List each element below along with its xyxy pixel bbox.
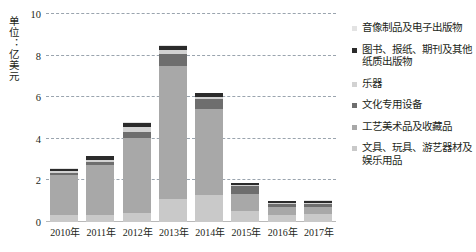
x-axis-tick-label: 2011年 <box>86 224 114 239</box>
bar-segment[interactable] <box>86 215 114 222</box>
legend-item[interactable]: 工艺美术品及收藏品 <box>352 121 474 134</box>
bar-segment[interactable] <box>159 199 187 222</box>
bar-segment[interactable] <box>123 213 151 222</box>
bar-segment[interactable] <box>50 215 78 222</box>
legend-item[interactable]: 图书、报纸、期刊及其他纸质出版物 <box>352 44 474 69</box>
bar-segment[interactable] <box>268 215 296 222</box>
bar-segment[interactable] <box>86 165 114 215</box>
legend-item[interactable]: 文具、玩具、游艺器材及娱乐用品 <box>352 142 474 167</box>
legend-item[interactable]: 文化专用设备 <box>352 99 474 112</box>
legend-swatch-icon <box>352 103 357 108</box>
legend-swatch-icon <box>352 125 357 130</box>
bar-segment[interactable] <box>195 195 223 222</box>
bar-column[interactable] <box>304 14 332 222</box>
bar-segment[interactable] <box>304 207 332 214</box>
y-axis-tick-label: 0 <box>36 217 41 228</box>
x-axis-labels: 2010年2011年2012年2013年2014年2015年2016年2017年 <box>46 224 336 239</box>
bar-segment[interactable] <box>159 66 187 199</box>
legend-swatch-icon <box>352 82 357 87</box>
plot-area: 0246810 <box>46 14 336 222</box>
legend-swatch-icon <box>352 48 357 53</box>
bar-segment[interactable] <box>304 214 332 222</box>
bar-column[interactable] <box>123 14 151 222</box>
bar-column[interactable] <box>231 14 259 222</box>
bar-column[interactable] <box>268 14 296 222</box>
bar-segment[interactable] <box>195 109 223 195</box>
bar-column[interactable] <box>195 14 223 222</box>
x-axis-tick-label: 2017年 <box>304 224 332 239</box>
legend-label: 乐器 <box>362 78 382 91</box>
bar-column[interactable] <box>159 14 187 222</box>
legend-item[interactable]: 乐器 <box>352 78 474 91</box>
x-axis-tick-label: 2012年 <box>123 224 151 239</box>
bar-segment[interactable] <box>268 207 296 214</box>
y-axis-tick-label: 8 <box>36 50 41 61</box>
bar-segment[interactable] <box>231 194 259 211</box>
chart-legend: 音像制品及电子出版物图书、报纸、期刊及其他纸质出版物乐器文化专用设备工艺美术品及… <box>352 22 474 176</box>
bar-column[interactable] <box>50 14 78 222</box>
legend-item[interactable]: 音像制品及电子出版物 <box>352 22 474 35</box>
legend-label: 文具、玩具、游艺器材及娱乐用品 <box>362 142 474 167</box>
x-axis-tick-label: 2015年 <box>231 224 259 239</box>
bar-segment[interactable] <box>195 99 223 108</box>
x-axis-tick-label: 2013年 <box>159 224 187 239</box>
legend-label: 文化专用设备 <box>362 99 422 112</box>
legend-label: 图书、报纸、期刊及其他纸质出版物 <box>362 44 474 69</box>
y-axis-tick-label: 6 <box>36 92 41 103</box>
legend-label: 工艺美术品及收藏品 <box>362 121 452 134</box>
bar-column[interactable] <box>86 14 114 222</box>
x-axis-tick-label: 2016年 <box>268 224 296 239</box>
bar-segment[interactable] <box>123 138 151 213</box>
legend-label: 音像制品及电子出版物 <box>362 22 462 35</box>
y-axis-tick-label: 10 <box>31 9 42 20</box>
y-axis-tick-label: 2 <box>36 175 41 186</box>
stacked-bar-chart: 单位：亿美元 0246810 2010年2011年2012年2013年2014年… <box>0 0 476 252</box>
y-axis-unit-caption: 单位：亿美元 <box>2 16 18 82</box>
legend-swatch-icon <box>352 26 357 31</box>
y-axis-tick-label: 4 <box>36 133 41 144</box>
legend-swatch-icon <box>352 146 357 151</box>
bar-segment[interactable] <box>231 211 259 222</box>
bar-segment[interactable] <box>231 186 259 194</box>
x-axis-tick-label: 2014年 <box>195 224 223 239</box>
bar-segment[interactable] <box>50 175 78 215</box>
x-axis-tick-label: 2010年 <box>50 224 78 239</box>
bar-segment[interactable] <box>159 54 187 66</box>
bars-group <box>46 14 336 222</box>
